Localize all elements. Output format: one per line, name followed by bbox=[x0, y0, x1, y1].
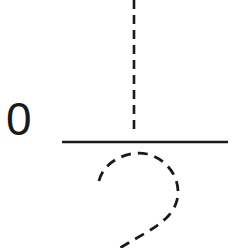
dashed-numeral-two-curve bbox=[99, 153, 178, 248]
diagram-canvas bbox=[0, 0, 239, 248]
